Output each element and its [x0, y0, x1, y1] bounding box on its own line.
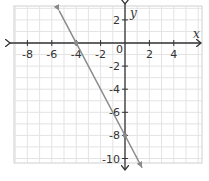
x-tick-label: -6: [46, 48, 57, 61]
y-tick-label: -4: [109, 83, 120, 96]
intercept-point: [123, 133, 127, 137]
x-axis-label: x: [193, 27, 200, 41]
x-tick-label: -8: [22, 48, 33, 61]
y-tick-label: -8: [109, 129, 120, 142]
y-tick-label: -2: [109, 60, 120, 73]
intercept-point: [74, 41, 78, 45]
x-tick-label: 2: [146, 48, 153, 61]
y-tick-label: 2: [113, 14, 120, 27]
y-tick-label: -10: [102, 153, 120, 166]
y-axis-label: y: [129, 6, 137, 20]
origin-label: 0: [116, 43, 123, 56]
x-tick-label: 4: [170, 48, 177, 61]
x-tick-label: -2: [95, 48, 106, 61]
coordinate-plane: -8-6-4-2242-2-4-6-8-10 x y 0: [0, 0, 209, 181]
